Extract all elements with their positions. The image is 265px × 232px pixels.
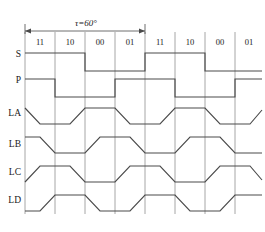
row-label-ld: LD xyxy=(8,195,21,205)
state-label-4: 11 xyxy=(156,37,164,47)
tau-label: τ=60° xyxy=(75,18,97,28)
row-label-la: LA xyxy=(8,108,21,118)
row-label-lb: LB xyxy=(9,139,21,149)
timing-diagram-canvas: τ=60° 11 10 00 01 11 10 00 01 S P LA LB … xyxy=(0,0,265,232)
figure-background xyxy=(0,0,265,232)
state-label-3: 01 xyxy=(126,37,135,47)
state-label-0: 11 xyxy=(36,37,44,47)
state-label-1: 10 xyxy=(66,37,75,47)
state-label-6: 00 xyxy=(216,37,225,47)
state-label-7: 01 xyxy=(245,37,254,47)
state-label-2: 00 xyxy=(96,37,105,47)
row-label-lc: LC xyxy=(9,167,21,177)
state-label-5: 10 xyxy=(186,37,195,47)
timing-diagram-figure: τ=60° 11 10 00 01 11 10 00 01 S P LA LB … xyxy=(0,0,265,232)
row-label-p: P xyxy=(16,75,21,85)
row-label-s: S xyxy=(16,49,21,59)
